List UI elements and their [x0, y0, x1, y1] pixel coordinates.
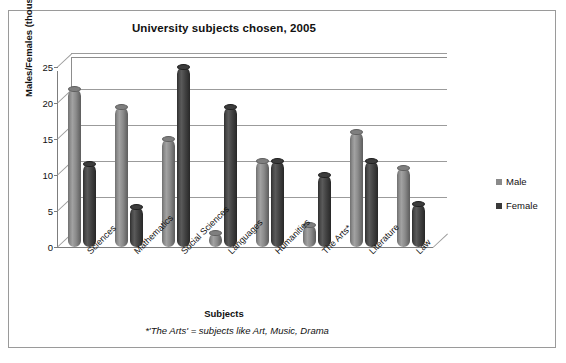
- bar-top-cap: [271, 158, 284, 164]
- x-axis-tick-labels: SciencesMathematicsSocial SciencesLangua…: [57, 249, 457, 309]
- y-tick-label: 15: [35, 134, 53, 145]
- chart-figure: University subjects chosen, 2005 0510152…: [8, 10, 556, 348]
- bar-top-cap: [224, 104, 237, 110]
- bar-male[interactable]: [68, 89, 81, 247]
- y-tick-label: 5: [35, 206, 53, 217]
- chart-title: University subjects chosen, 2005: [9, 22, 439, 34]
- bar-top-cap: [130, 204, 143, 210]
- bar-female[interactable]: [224, 107, 237, 247]
- bar-female[interactable]: [83, 164, 96, 247]
- chart-legend: MaleFemale: [496, 176, 556, 224]
- bar-top-cap: [68, 86, 81, 92]
- y-axis-title: Males/Females (thousands): [23, 0, 34, 97]
- bar-male[interactable]: [256, 161, 269, 247]
- legend-label: Male: [506, 176, 527, 187]
- bar-top-cap: [162, 136, 175, 142]
- legend-item-male[interactable]: Male: [496, 176, 556, 187]
- bar-top-cap: [397, 165, 410, 171]
- y-tick-label: 0: [35, 242, 53, 253]
- legend-swatch-icon: [496, 179, 502, 185]
- bar-group: [245, 57, 292, 247]
- bar-top-cap: [256, 158, 269, 164]
- bar-female[interactable]: [271, 161, 284, 247]
- bar-top-cap: [365, 158, 378, 164]
- legend-swatch-icon: [496, 203, 502, 209]
- x-axis-title: Subjects: [9, 308, 439, 319]
- bar-top-cap: [412, 201, 425, 207]
- bar-group: [104, 57, 151, 247]
- bar-female[interactable]: [177, 67, 190, 247]
- bar-top-cap: [177, 64, 190, 70]
- legend-item-female[interactable]: Female: [496, 200, 556, 211]
- gridline: [71, 53, 447, 54]
- bar-top-cap: [350, 129, 363, 135]
- bar-male[interactable]: [397, 168, 410, 247]
- bar-group: [339, 57, 386, 247]
- bar-male[interactable]: [209, 233, 222, 247]
- plot-area: 0510152025 Males/Females (thousands): [57, 57, 447, 247]
- bar-group: [292, 57, 339, 247]
- bar-female[interactable]: [365, 161, 378, 247]
- bar-group: [386, 57, 433, 247]
- bar-group: [57, 57, 104, 247]
- bar-male[interactable]: [115, 107, 128, 247]
- y-tick-label: 10: [35, 170, 53, 181]
- y-tick-label: 25: [35, 62, 53, 73]
- bar-female[interactable]: [318, 175, 331, 247]
- bar-top-cap: [318, 172, 331, 178]
- y-tick-label: 20: [35, 98, 53, 109]
- bar-top-cap: [115, 104, 128, 110]
- bar-series-container: [57, 57, 433, 247]
- y-tick-mark: [54, 247, 58, 248]
- bar-top-cap: [83, 161, 96, 167]
- legend-label: Female: [506, 200, 538, 211]
- chart-footnote: *'The Arts' = subjects like Art, Music, …: [9, 325, 465, 336]
